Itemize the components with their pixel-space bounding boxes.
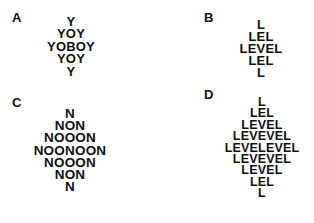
diamond-row: N (65, 181, 75, 193)
diamond-row: L (258, 188, 266, 199)
palindrome-diamond-b: L LEL LEVEL LEL L (221, 19, 301, 79)
panel-label-b: B (204, 11, 213, 24)
palindrome-diamond-d: L LEL LEVEL LEVEVEL LEVELEVEL LEVEVEL LE… (207, 97, 314, 200)
diamond-row: Y (67, 66, 76, 78)
diamond-row: L (257, 67, 265, 79)
palindrome-diamond-a: Y YOY YOBOY YOY Y (31, 16, 111, 78)
panel-label-a: A (12, 11, 21, 24)
palindrome-diamond-c: N NON NOOON NOONOON NOOON NON N (20, 108, 120, 193)
